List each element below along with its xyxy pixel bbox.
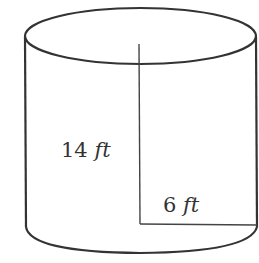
- cylinder-right-side: [256, 37, 257, 227]
- cylinder-top-ellipse: [25, 8, 256, 64]
- height-line: [139, 44, 140, 224]
- radius-line: [140, 224, 257, 225]
- cylinder-diagram: 14 ft 6 ft: [0, 0, 259, 263]
- height-label: 14 ft: [61, 138, 111, 162]
- radius-label: 6 ft: [163, 193, 200, 217]
- cylinder-bottom-arc: [26, 227, 257, 253]
- cylinder-left-side: [25, 37, 26, 227]
